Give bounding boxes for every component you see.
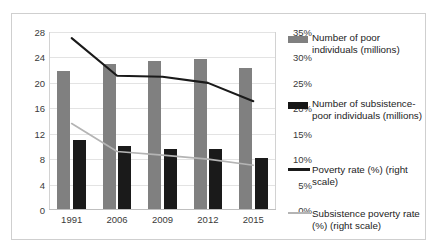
left-axis-tick: 4 bbox=[15, 179, 45, 190]
right-axis-spine bbox=[275, 32, 276, 210]
legend-item-label: Subsistence poverty rate (%) (right scal… bbox=[312, 208, 426, 232]
plot-area bbox=[49, 32, 276, 210]
bar-subsistence-poor-individuals bbox=[164, 149, 177, 210]
left-axis-tick: 24 bbox=[15, 52, 45, 63]
left-axis-tick: 16 bbox=[15, 103, 45, 114]
category-tick-2006: 2006 bbox=[95, 214, 139, 225]
gridline bbox=[49, 32, 276, 33]
category-tick-2015: 2015 bbox=[231, 214, 275, 225]
bar-subsistence-poor-individuals bbox=[255, 158, 268, 210]
chart-container: 0481216202428 0%5%10%15%20%25%30%35% 199… bbox=[0, 0, 437, 249]
legend-swatch-subsistence-poverty-rate-line bbox=[288, 208, 312, 214]
left-axis-tick: 28 bbox=[15, 27, 45, 38]
category-axis-line bbox=[49, 209, 276, 210]
right-axis-tick: 10% bbox=[280, 154, 312, 165]
legend-item-label: Number of poor individuals (millions) bbox=[312, 32, 426, 56]
category-tick-1991: 1991 bbox=[50, 214, 94, 225]
bar-subsistence-poor-individuals bbox=[118, 146, 131, 210]
legend-item: Number of subsistence-poor individuals (… bbox=[288, 98, 426, 122]
legend-item-label: Poverty rate (%) (right scale) bbox=[312, 164, 426, 188]
left-axis-tick: 20 bbox=[15, 77, 45, 88]
bar-poor-individuals bbox=[57, 71, 70, 210]
legend-item-label: Number of subsistence-poor individuals (… bbox=[312, 98, 426, 122]
bar-poor-individuals bbox=[103, 64, 116, 210]
left-axis-tick: 12 bbox=[15, 128, 45, 139]
bar-subsistence-poor-individuals bbox=[73, 140, 86, 210]
left-axis-spine bbox=[49, 32, 50, 210]
legend-swatch-poor-bar bbox=[288, 32, 312, 43]
bar-poor-individuals bbox=[148, 61, 161, 210]
right-axis-tick: 15% bbox=[280, 128, 312, 139]
bar-poor-individuals bbox=[239, 68, 252, 210]
legend-item: Number of poor individuals (millions) bbox=[288, 32, 426, 56]
poverty-rate-line bbox=[72, 38, 254, 101]
legend-swatch-subsistence-poor-bar bbox=[288, 98, 312, 109]
legend-item: Subsistence poverty rate (%) (right scal… bbox=[288, 208, 426, 232]
legend-swatch-poverty-rate-line bbox=[288, 164, 312, 171]
bar-poor-individuals bbox=[194, 59, 207, 210]
gridline bbox=[49, 57, 276, 58]
chart-title-strip bbox=[0, 0, 437, 9]
left-axis-tick: 0 bbox=[15, 205, 45, 216]
left-axis-tick: 8 bbox=[15, 154, 45, 165]
category-tick-2012: 2012 bbox=[186, 214, 230, 225]
right-axis-tick: 25% bbox=[280, 77, 312, 88]
bar-subsistence-poor-individuals bbox=[209, 149, 222, 210]
chart-plot-frame: 0481216202428 0%5%10%15%20%25%30%35% 199… bbox=[11, 13, 426, 240]
legend-item: Poverty rate (%) (right scale) bbox=[288, 164, 426, 188]
category-tick-2009: 2009 bbox=[141, 214, 185, 225]
